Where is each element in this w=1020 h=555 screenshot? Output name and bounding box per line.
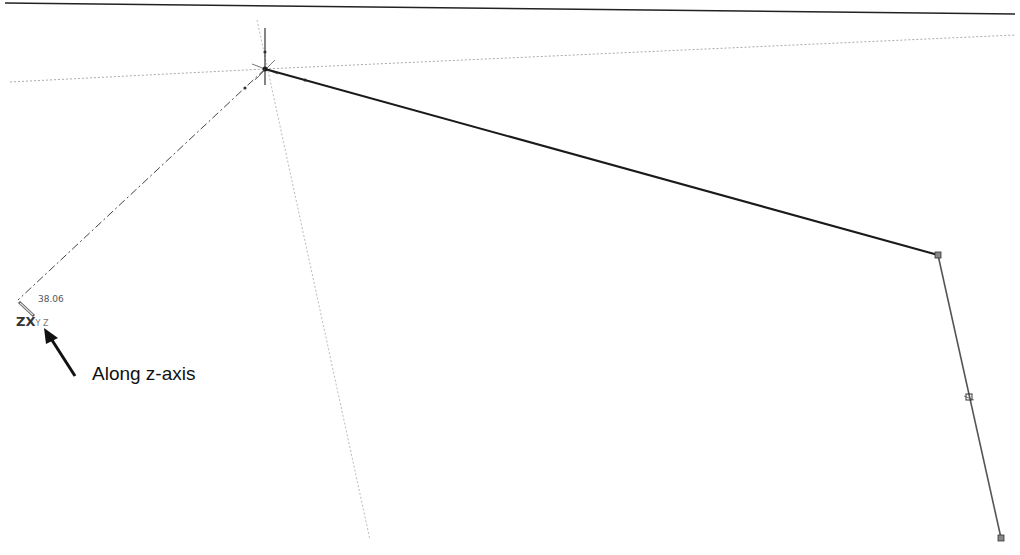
sketch-line-2[interactable] xyxy=(938,255,1001,538)
z-axis-preview-line xyxy=(18,69,265,300)
axis-label-suffix: Y Z xyxy=(35,319,48,328)
top-edge-line xyxy=(5,3,1015,14)
dimension-value: 38.06 xyxy=(38,294,64,304)
endpoint-corner[interactable] xyxy=(935,252,941,258)
z-axis-midpoint xyxy=(243,86,246,89)
construction-line-vertical xyxy=(257,20,370,540)
endpoint-bottom[interactable] xyxy=(998,535,1004,541)
sketch-line-1-mid xyxy=(304,79,307,82)
origin-y-marker xyxy=(264,51,267,54)
annotation-text: Along z-axis xyxy=(92,363,196,385)
annotation-arrow-icon xyxy=(44,328,75,376)
axis-inference-label: ZXY Z xyxy=(16,314,48,329)
sketch-canvas[interactable] xyxy=(0,0,1020,555)
sketch-line-1[interactable] xyxy=(265,69,938,255)
axis-label-main: ZX xyxy=(16,314,35,329)
construction-line-right xyxy=(265,35,1015,69)
construction-line-left xyxy=(10,69,265,82)
